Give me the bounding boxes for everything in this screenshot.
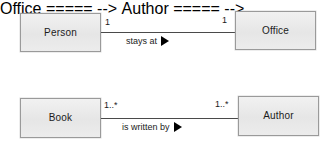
class-name-label: Person xyxy=(44,28,77,38)
association-line-book-author xyxy=(101,118,238,119)
multiplicity-book-end: 1..* xyxy=(104,101,118,110)
class-box-book[interactable]: Book xyxy=(20,98,101,138)
multiplicity-author-end: 1..* xyxy=(215,100,229,109)
association-label-is-written-by: is written by xyxy=(122,122,182,132)
multiplicity-person-end: 1 xyxy=(105,18,110,27)
class-box-author[interactable]: Author xyxy=(238,96,319,136)
triangle-right-icon xyxy=(174,122,182,132)
association-label-text: is written by xyxy=(122,123,170,132)
association-label-text: stays at xyxy=(126,37,157,46)
class-name-label: Office xyxy=(262,26,289,36)
association-label-stays-at: stays at xyxy=(126,36,169,46)
class-box-office[interactable]: Office xyxy=(235,11,316,50)
triangle-right-icon xyxy=(161,36,169,46)
class-name-label: Author xyxy=(263,111,294,121)
class-box-person[interactable]: Person xyxy=(20,13,101,52)
uml-diagram-canvas: Office ===== --> Person 1 1 stays at Off… xyxy=(0,0,331,150)
class-name-label: Book xyxy=(49,113,73,123)
multiplicity-office-end: 1 xyxy=(222,16,227,25)
association-line-person-office xyxy=(101,32,235,33)
